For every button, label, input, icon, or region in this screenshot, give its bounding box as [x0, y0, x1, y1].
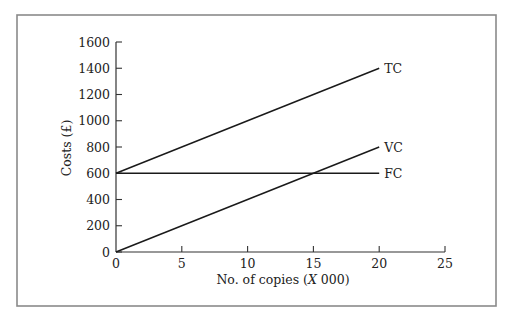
- cost-chart: 02004006008001000120014001600 0510152025…: [0, 0, 511, 323]
- series-line-vc: [116, 147, 379, 252]
- y-tick-label: 600: [86, 166, 110, 181]
- y-tick-label: 1200: [78, 87, 110, 102]
- y-tick-label: 800: [86, 140, 110, 155]
- x-tick-label: 25: [437, 256, 453, 271]
- series-label-fc: FC: [384, 166, 402, 181]
- x-tick-label: 0: [112, 256, 120, 271]
- x-tick-label: 20: [371, 256, 387, 271]
- series-line-tc: [116, 68, 379, 173]
- y-tick-label: 400: [86, 192, 110, 207]
- y-tick-label: 1000: [78, 113, 110, 128]
- y-tick-label: 1400: [78, 61, 110, 76]
- y-axis: 02004006008001000120014001600: [78, 35, 122, 260]
- series-label-tc: TC: [384, 61, 402, 76]
- x-axis-label: No. of copies (X 000): [216, 272, 349, 287]
- series-label-vc: VC: [383, 140, 403, 155]
- y-tick-label: 1600: [78, 35, 110, 50]
- y-tick-label: 0: [102, 245, 110, 260]
- x-tick-label: 10: [240, 256, 256, 271]
- chart-frame: [17, 15, 496, 306]
- x-tick-label: 15: [305, 256, 321, 271]
- x-tick-label: 5: [178, 256, 186, 271]
- x-axis: 0510152025: [112, 246, 453, 271]
- y-axis-label: Costs (£): [59, 120, 74, 177]
- series-layer: TCVCFC: [116, 61, 403, 252]
- y-tick-label: 200: [86, 218, 110, 233]
